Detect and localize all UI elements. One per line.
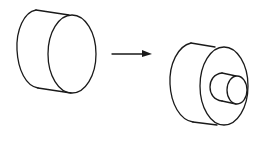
result-stepped-cylinder (170, 43, 248, 125)
transform-arrow (112, 50, 152, 57)
boss-top-edge (222, 73, 236, 76)
boss-cylinder (210, 73, 247, 104)
boss-front-face (227, 76, 247, 104)
diagram-svg (0, 0, 260, 147)
source-cylinder-back-edge (17, 10, 38, 88)
result-cylinder-top-edge (191, 43, 215, 47)
arrow-head-icon (142, 50, 152, 57)
result-cylinder-back-edge (170, 43, 193, 122)
source-cylinder (17, 10, 96, 93)
result-cylinder-bottom-edge (193, 122, 217, 125)
source-cylinder-top-edge (36, 10, 69, 15)
boss-back-edge (210, 73, 222, 101)
diagram-canvas (0, 0, 260, 147)
source-cylinder-front-face (48, 15, 96, 93)
